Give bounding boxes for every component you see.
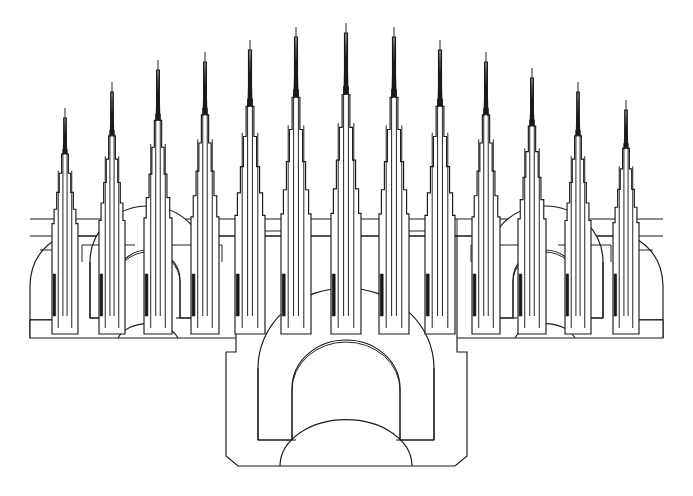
spire-10-shadow [473, 274, 476, 316]
spire-6-shadow [282, 274, 285, 316]
spire-5-shadow [236, 274, 239, 316]
spire-1-shadow [53, 274, 56, 316]
cathedral-line-drawing: Gothic Cathedral Facade Line Drawing Sym… [0, 0, 693, 496]
spire-11-shadow [519, 274, 522, 316]
spire-4-shadow [192, 274, 195, 316]
spire-3-shadow [145, 274, 148, 316]
spire-13-shadow [614, 274, 617, 316]
spire-7-shadow [332, 274, 335, 316]
drawing-canvas: Gothic Cathedral Facade Line Drawing Sym… [0, 0, 693, 496]
spire-2-shadow [100, 274, 103, 316]
spire-8-shadow [380, 274, 383, 316]
spire-12-shadow [566, 274, 569, 316]
spire-9-shadow [426, 274, 429, 316]
